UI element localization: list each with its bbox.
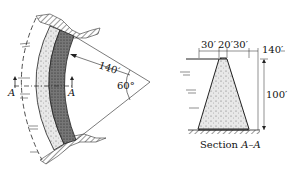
ground	[188, 130, 260, 134]
radial-line-bottom	[76, 82, 150, 140]
dam-cross-section-fill	[198, 59, 249, 129]
right-dim-radius: 140′	[262, 44, 284, 55]
top-dim-upstream: 30′	[201, 39, 217, 50]
section-view: 30′ 20′ 30′ 140′ 100′ Section A–A	[180, 39, 288, 150]
caption-section: A–A	[240, 139, 260, 150]
caption-prefix: Section	[200, 139, 241, 150]
section-marker-right: A	[67, 87, 75, 98]
section-water-lines	[180, 72, 199, 108]
section-caption: Section A–A	[200, 139, 261, 150]
height-label: 100′	[266, 89, 288, 100]
section-marker-left: A	[7, 87, 15, 98]
water-lines	[18, 43, 38, 152]
plan-view: A A 140′ 60°	[7, 14, 150, 164]
arch-dam-diagram: A A 140′ 60°	[0, 0, 292, 172]
angle-label: 60°	[117, 80, 135, 91]
top-dim-crest: 20′	[218, 39, 234, 50]
radial-line-top	[74, 36, 150, 82]
top-dim-downstream: 30′	[233, 39, 249, 50]
radius-label: 140′	[97, 59, 121, 76]
